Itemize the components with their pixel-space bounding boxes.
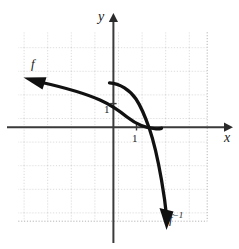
y-axis-unit-tick-label: 1 (104, 104, 110, 115)
x-axis-unit-tick-label: 1 (132, 133, 138, 144)
curve-f-label: f (31, 57, 35, 70)
graph-canvas (0, 0, 239, 249)
y-axis-arrowhead (109, 13, 118, 22)
curve-f-inverse-label-exponent: −1 (173, 210, 184, 220)
x-axis-label: x (224, 131, 230, 145)
y-axis-label: y (98, 10, 104, 24)
curve-f-inverse-label: f−1 (169, 212, 183, 225)
graph-figure: y x 1 1 f f−1 (0, 0, 239, 249)
